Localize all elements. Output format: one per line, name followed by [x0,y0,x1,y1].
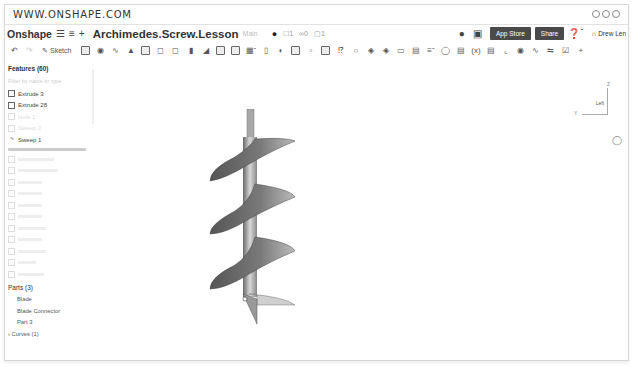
rolled-back-feature[interactable] [5,165,95,177]
share-button[interactable]: Share [535,27,564,40]
app-bar-right: ● ▣ App Store Share ❓ˇ ∩Drew Len [459,27,626,40]
feature-item[interactable]: Extrude 3 [5,88,95,100]
notifications-icon[interactable]: ▣ [473,28,482,39]
sketch-button[interactable]: ✎Sketch [42,47,71,55]
url-text: WWW.ONSHAPE.COM [13,9,132,20]
globe-icon[interactable]: ● [272,29,277,39]
rib-icon[interactable]: ◢ [199,45,212,56]
bridging-curve-icon[interactable]: ⇋ [544,45,557,56]
add-custom-feature-icon[interactable]: + [574,45,587,56]
finish-icon[interactable]: ☑ [559,45,572,56]
replace-face-icon[interactable]: ◈ [364,45,377,56]
rolled-back-feature[interactable] [5,177,95,189]
delete-part-icon[interactable] [319,45,332,56]
modify-fillet-icon[interactable]: ⁉ [334,45,347,56]
rolled-back-feature[interactable] [5,246,95,258]
mate-connector-icon[interactable]: ▤ [409,45,422,56]
rolled-back-feature[interactable] [5,223,95,235]
undo-icon[interactable]: ↶ [8,45,21,56]
hole-icon[interactable] [229,45,242,56]
part-item[interactable]: Blade Connector [5,305,95,317]
feature-list-icon[interactable]: ≡ [69,28,75,39]
browser-frame: WWW.ONSHAPE.COM Onshape ☰ ≡ + Archimedes… [4,4,629,361]
view-cube[interactable]: Z Left Y [580,81,610,121]
rolled-back-feature[interactable] [5,154,95,166]
help-icon[interactable]: ❓ˇ [568,28,583,39]
offset-surface-icon[interactable]: ◈ [379,45,392,56]
archimedes-screw-model[interactable] [205,109,305,324]
redo-icon[interactable]: ↷ [23,45,36,56]
variable-icon[interactable]: (x) [469,45,482,56]
tab-icon[interactable]: ◉ [514,45,527,56]
feature-tree: Features (60) Filter by name or type Ext… [5,61,95,351]
avatar-icon: ∩ [592,30,597,37]
rolled-back-feature[interactable] [5,200,95,212]
section-icon[interactable]: ▤ [454,45,467,56]
axis-y-line [582,114,608,115]
links-count[interactable]: ∞0 [299,30,308,37]
onshape-logo[interactable]: Onshape [7,28,52,40]
thicken-icon[interactable] [139,45,152,56]
axis-z-label: Z [607,81,610,87]
fillet-icon[interactable]: ◻ [154,45,167,56]
window-dot-icon[interactable] [612,10,620,18]
window-dot-icon[interactable] [602,10,610,18]
mirror-icon[interactable]: ▯ [259,45,272,56]
rolled-back-feature[interactable] [5,188,95,200]
loft-icon[interactable]: ▲ [124,45,137,56]
revolve-icon[interactable]: ◉ [94,45,107,56]
rolled-back-feature[interactable] [5,234,95,246]
hole-icon [8,113,15,120]
feature-item[interactable]: Extrude 28 [5,100,95,112]
branch-label[interactable]: Main [243,30,258,37]
shell-icon[interactable] [214,45,227,56]
move-face-icon[interactable]: ○ [349,45,362,56]
sheet-metal-icon[interactable]: ▤ [484,45,497,56]
add-icon[interactable]: + [79,28,85,39]
rolled-back-feature[interactable] [5,269,95,281]
document-title[interactable]: Archimedes.Screw.Lesson [93,28,239,40]
pattern-icon[interactable]: ▦ˇ [244,45,257,56]
split-icon[interactable] [289,45,302,56]
likes-count[interactable]: ☐1 [283,30,293,38]
rolled-back-feature[interactable] [5,257,95,269]
window-dot-icon[interactable] [592,10,600,18]
curve-icon[interactable]: ∿ [529,45,542,56]
transform-icon[interactable]: ▫ [304,45,317,56]
url-bar: WWW.ONSHAPE.COM [5,5,628,25]
render-mode-icon[interactable]: ◯ [612,135,622,145]
axis-y-label: Y [574,110,577,116]
copies-count[interactable]: ▢1 [314,30,325,38]
sweep-icon[interactable]: ∿ [109,45,122,56]
3d-viewport[interactable]: Z Left Y ◯ [97,61,628,360]
pencil-icon: ✎ [42,47,48,55]
comment-icon[interactable]: ● [459,28,465,39]
feature-item[interactable]: ∿Sweep 1 [5,134,95,146]
parts-title[interactable]: Parts (3) [5,280,95,293]
feature-toolbar: ↶ ↷ ✎Sketch ◉ ∿ ▲ ◻ ◻ ▮ ◢ ▦ˇ ▯ ◐ ▫ ⁉ ○ ◈… [5,42,628,59]
axis-z-line [607,88,608,115]
helix-icon[interactable]: ≡ˇ [424,45,437,56]
window-controls [592,10,620,18]
flange-icon[interactable]: ⌞ [499,45,512,56]
hamburger-icon[interactable]: ☰ [56,28,65,39]
draft-icon[interactable]: ▮ [184,45,197,56]
sidebar-scrollbar[interactable] [92,69,94,124]
plane-icon[interactable]: ▭ [394,45,407,56]
extrude-icon[interactable] [79,45,92,56]
feature-item[interactable]: Hole 1 [5,111,95,123]
boolean-icon[interactable]: ◐ [274,45,287,56]
rollback-bar[interactable] [8,148,86,151]
view-face-label[interactable]: Left [596,100,604,106]
measure-icon[interactable]: ◯ [439,45,452,56]
app-store-button[interactable]: App Store [490,27,531,40]
feature-filter-input[interactable]: Filter by name or type [5,76,95,88]
part-item[interactable]: Blade [5,293,95,305]
part-item[interactable]: Part 3 [5,316,95,328]
curves-group[interactable]: › Curves (1) [5,328,95,340]
user-menu[interactable]: ∩Drew Len [592,30,627,37]
document-meta: ● ☐1 ∞0 ▢1 [272,29,325,39]
rolled-back-feature[interactable] [5,211,95,223]
feature-item[interactable]: Sweep 2 [5,123,95,135]
chamfer-icon[interactable]: ◻ [169,45,182,56]
